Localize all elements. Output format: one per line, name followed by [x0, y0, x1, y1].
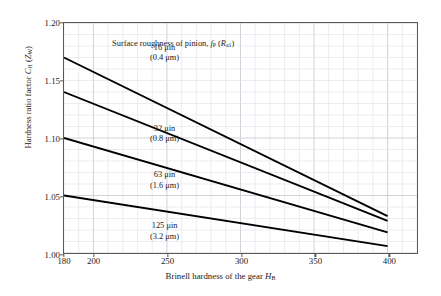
y-tick-mark [60, 196, 64, 197]
y-axis-title: Hardness ratio factor CH (ZW) [23, 7, 33, 187]
curve-label-line1: 63 μin [154, 170, 175, 179]
figure-hardness-ratio-factor-chart: 1.001.051.101.151.20 180200250300350400 … [0, 0, 441, 296]
curve-label-4: 125 μin(3.2 μm) [133, 221, 197, 242]
curve-label-3: 63 μin(1.6 μm) [133, 170, 197, 191]
x-tick-mark [241, 253, 242, 257]
y-tick-label: 1.10 [45, 134, 60, 144]
x-tick-label: 300 [235, 256, 248, 266]
x-tick-label: 200 [87, 256, 100, 266]
y-tick-label: 1.20 [45, 18, 60, 28]
x-tick-label: 250 [161, 256, 174, 266]
curve-label-line2: (3.2 μm) [150, 232, 179, 241]
curve-label-line2: (0.8 μm) [150, 134, 179, 143]
y-tick-label: 1.15 [45, 76, 60, 86]
x-tick-mark [167, 253, 168, 257]
x-axis-title: Brinell hardness of the gear HB [0, 271, 441, 281]
curve-label-2: 32 μin(0.8 μm) [133, 124, 197, 145]
curve-label-line2: (0.4 μm) [150, 53, 179, 62]
curve-label-line2: (1.6 μm) [150, 181, 179, 190]
curve-3 [64, 138, 388, 232]
curve-label-line1: 32 μin [154, 124, 175, 133]
x-tick-label: 350 [309, 256, 322, 266]
x-tick-label: 180 [57, 256, 70, 266]
curve-1 [64, 58, 388, 217]
y-tick-mark [60, 22, 64, 23]
curve-4 [64, 196, 388, 247]
chart-annotation-surface-roughness: Surface roughness of pinion, fP (Ra1) [112, 39, 234, 48]
y-tick-label: 1.05 [45, 192, 60, 202]
x-tick-mark [389, 253, 390, 257]
y-tick-mark [60, 80, 64, 81]
curve-2 [64, 92, 388, 221]
curve-label-line1: 125 μin [152, 221, 178, 230]
x-tick-mark [63, 253, 64, 257]
x-tick-mark [93, 253, 94, 257]
plot-area: 1.001.051.101.151.20 180200250300350400 … [63, 22, 418, 254]
data-layer [64, 23, 417, 253]
y-tick-mark [60, 138, 64, 139]
x-tick-label: 400 [383, 256, 396, 266]
x-tick-mark [315, 253, 316, 257]
